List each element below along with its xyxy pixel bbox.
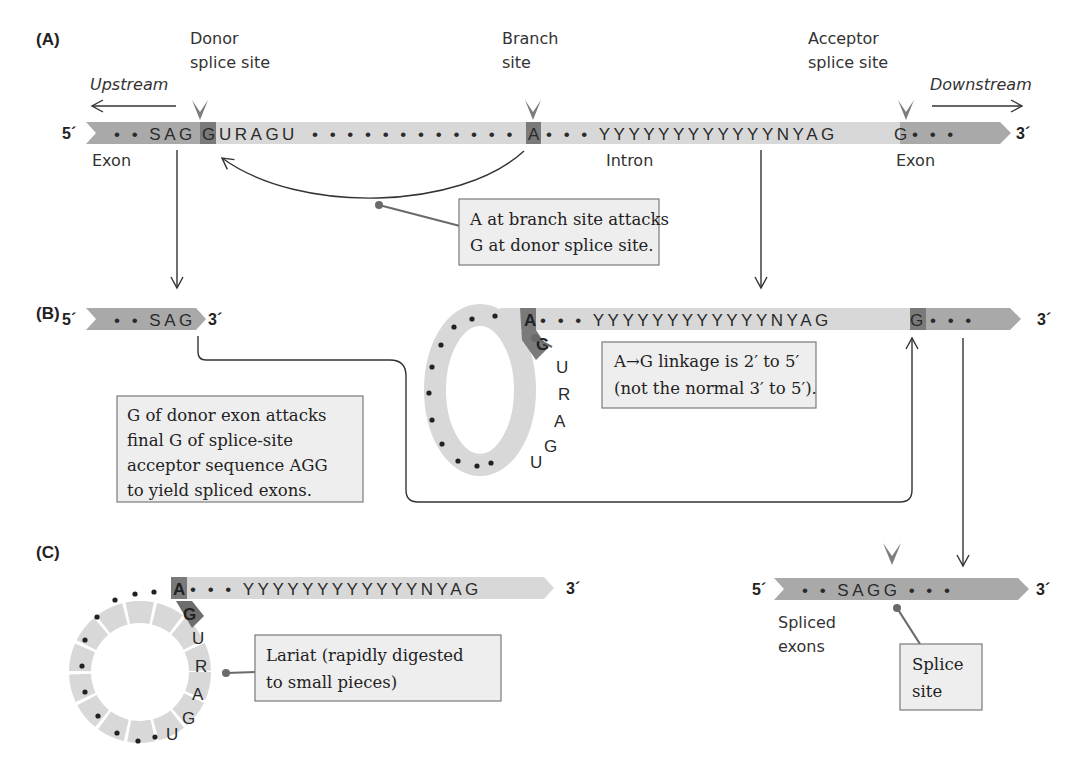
intron-dots: • • • • • • • • • • • • <box>312 125 516 144</box>
panel-c-label: (C) <box>36 543 60 562</box>
three-prime-label: 3´ <box>1016 125 1030 142</box>
branch-attack-callout <box>459 199 659 265</box>
branch-attack-text-1: A at branch site attacks <box>469 210 669 229</box>
branch-a: A <box>528 125 543 144</box>
exon-left-sequence: • • SAG <box>114 125 196 144</box>
exon-right-label: Exon <box>896 151 935 170</box>
c-lariat-letter-u2: U <box>166 725 182 744</box>
donor-label-2: splice site <box>190 53 270 72</box>
c-lariat-leader <box>226 672 256 673</box>
b-lariat-loop <box>435 315 525 465</box>
linkage-text-2: (not the normal 3′ to 5′). <box>614 379 817 398</box>
c-lariat-letter-u: U <box>192 629 208 648</box>
splice-site-text-2: site <box>912 682 942 701</box>
intron-end-sequence: • • • YYYYYYYYYYYYNYAG <box>546 125 838 144</box>
b-lariat-letter-u2: U <box>530 453 546 472</box>
five-prime-label: 5´ <box>62 125 76 142</box>
c-lariat-letter-r: R <box>195 657 211 676</box>
acceptor-g: G <box>894 125 911 144</box>
panel-c: (C) A G U R A G U • • • YYYYYYYYYYYYNYAG… <box>36 543 1050 744</box>
donor-attack-text-3: acceptor sequence AGG <box>127 456 328 475</box>
donor-attack-text-4: to yield spliced exons. <box>127 481 312 500</box>
donor-marker-icon <box>192 100 208 120</box>
spliced-label-2: exons <box>778 637 825 656</box>
b-acceptor-g: G <box>910 311 927 330</box>
c-lariat-letter-g: G <box>182 709 199 728</box>
splice-site-leader <box>897 608 920 644</box>
c-intron-end <box>534 577 554 599</box>
spliced-label-1: Spliced <box>778 613 836 632</box>
acceptor-label-2: splice site <box>808 53 888 72</box>
acceptor-label: Acceptor <box>808 29 879 48</box>
lariat-text-2: to small pieces) <box>266 673 397 692</box>
c-lariat-a: A <box>173 580 185 599</box>
intron-start-sequence: URAGU <box>219 125 298 144</box>
exon-right-sequence: • • • <box>912 125 957 144</box>
c-three-prime-label: 3´ <box>566 580 580 597</box>
branch-attack-arrow-icon <box>222 151 524 198</box>
spliced-sequence: • • SAGG • • • <box>802 581 954 600</box>
c-lariat-letter-a: A <box>192 685 207 704</box>
upstream-label: Upstream <box>90 75 168 94</box>
panel-b-label: (B) <box>36 304 60 323</box>
splice-site-text-1: Splice <box>912 655 963 674</box>
donor-attack-text-2: final G of splice-site <box>127 431 293 450</box>
c-lariat-g: G <box>183 605 196 624</box>
branch-attack-text-2: G at donor splice site. <box>470 236 654 255</box>
donor-attack-text-1: G of donor exon attacks <box>127 406 326 425</box>
b-three-prime-right: 3´ <box>1037 311 1051 328</box>
b-exon-right-sequence: • • • <box>930 311 975 330</box>
exon-left-label: Exon <box>92 151 131 170</box>
lariat-text-1: Lariat (rapidly digested <box>266 646 464 665</box>
branch-label-2: site <box>502 53 531 72</box>
c-intron-sequence: • • • YYYYYYYYYYYYNYAG <box>190 580 482 599</box>
panel-b: (B) 5´ • • SAG 3´ A G U R A G U • • • YY… <box>36 304 1051 566</box>
callout-leader <box>379 205 460 226</box>
b-lariat-letter-r: R <box>558 385 574 404</box>
panel-a-label: (A) <box>36 30 60 49</box>
b-lariat-letter-g: G <box>544 437 561 456</box>
donor-g: G <box>202 125 219 144</box>
acceptor-marker-icon <box>898 100 914 120</box>
b-lariat-letter-a: A <box>554 412 569 431</box>
branch-marker-icon <box>525 100 541 120</box>
b-five-prime-label: 5´ <box>62 311 76 328</box>
b-three-prime-label: 3´ <box>208 311 222 328</box>
spliced-five-prime-label: 5´ <box>752 581 766 598</box>
linkage-text-1: A→G linkage is 2′ to 5′ <box>613 352 800 371</box>
b-lariat-letter-u: U <box>556 358 572 377</box>
downstream-label: Downstream <box>930 75 1032 94</box>
b-lariat-a: A <box>524 311 536 330</box>
spliced-marker-icon <box>883 543 901 565</box>
b-intron-sequence: • • • YYYYYYYYYYYYNYAG <box>540 311 832 330</box>
splicing-diagram: (A) Donor splice site Branch site Accept… <box>0 0 1092 772</box>
panel-a: (A) Donor splice site Branch site Accept… <box>36 29 1032 288</box>
branch-label: Branch <box>502 29 558 48</box>
spliced-three-prime-label: 3´ <box>1036 581 1050 598</box>
intron-label: Intron <box>606 151 653 170</box>
b-exon-sequence: • • SAG <box>114 311 196 330</box>
donor-label: Donor <box>190 29 239 48</box>
